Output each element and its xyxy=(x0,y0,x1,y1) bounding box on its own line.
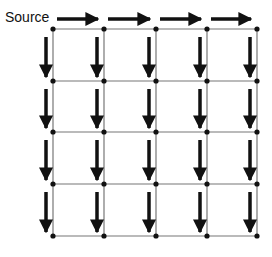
grid-node xyxy=(254,26,259,31)
grid-node xyxy=(204,181,209,186)
grid-node xyxy=(204,26,209,31)
grid-node xyxy=(101,78,106,83)
grid-node xyxy=(50,181,55,186)
grid-node xyxy=(153,26,158,31)
grid-node xyxy=(101,233,106,238)
grid-node xyxy=(153,233,158,238)
vertical-arrows xyxy=(46,37,250,232)
grid-node xyxy=(50,233,55,238)
grid-node xyxy=(204,233,209,238)
grid-node xyxy=(101,129,106,134)
grid-node xyxy=(204,78,209,83)
grid-node xyxy=(204,129,209,134)
grid-node xyxy=(254,233,259,238)
grid-diagram xyxy=(0,0,272,257)
grid-node xyxy=(254,181,259,186)
grid-node xyxy=(254,129,259,134)
grid-node xyxy=(153,181,158,186)
grid-node xyxy=(153,78,158,83)
grid-node xyxy=(50,78,55,83)
grid-node xyxy=(50,26,55,31)
grid-node xyxy=(50,129,55,134)
grid-node xyxy=(254,78,259,83)
grid-node xyxy=(101,26,106,31)
grid-node xyxy=(153,129,158,134)
grid-node xyxy=(101,181,106,186)
